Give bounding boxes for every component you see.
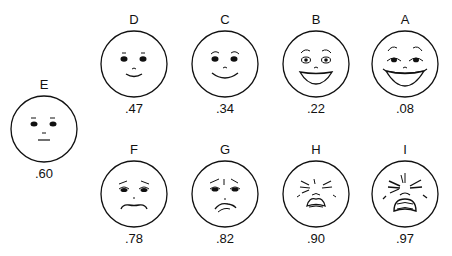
face-value: .90 bbox=[281, 232, 351, 246]
face-value: .82 bbox=[190, 232, 260, 246]
laughing-face-icon bbox=[370, 29, 440, 99]
face-letter: F bbox=[99, 143, 169, 157]
slight-smile-face-icon bbox=[99, 29, 169, 99]
smile-face-icon bbox=[190, 29, 260, 99]
face-letter: I bbox=[370, 143, 440, 157]
big-smile-face-icon bbox=[281, 29, 351, 99]
face-letter: D bbox=[99, 13, 169, 27]
face-letter: H bbox=[281, 143, 351, 157]
face-letter: E bbox=[9, 78, 79, 92]
crying-face-icon bbox=[370, 159, 440, 229]
face-value: .34 bbox=[190, 102, 260, 116]
neutral-face-icon bbox=[9, 94, 79, 164]
slight-frown-face-icon bbox=[99, 159, 169, 229]
face-value: .60 bbox=[9, 167, 79, 181]
face-value: .22 bbox=[281, 102, 351, 116]
sad-face-icon bbox=[190, 159, 260, 229]
face-letter: G bbox=[190, 143, 260, 157]
face-letter: C bbox=[190, 13, 260, 27]
face-value: .78 bbox=[99, 232, 169, 246]
face-value: .97 bbox=[370, 232, 440, 246]
face-letter: A bbox=[370, 13, 440, 27]
face-value: .08 bbox=[370, 102, 440, 116]
face-letter: B bbox=[281, 13, 351, 27]
very-sad-face-icon bbox=[281, 159, 351, 229]
face-value: .47 bbox=[99, 102, 169, 116]
